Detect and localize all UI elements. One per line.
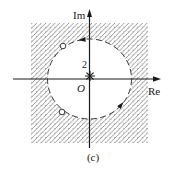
circle-point-marker-lower-icon <box>59 109 65 115</box>
asterisk-pole-marker-icon <box>86 72 95 81</box>
origin-label: O <box>77 82 85 94</box>
complex-plane-figure: Im Re O 2 (c) <box>0 0 173 171</box>
im-axis-label: Im <box>73 9 86 21</box>
pole-multiplicity-label: 2 <box>82 59 87 70</box>
imaginary-axis-arrow-icon <box>87 9 92 17</box>
complex-plane-diagram: Im Re O 2 (c) <box>0 0 173 171</box>
circle-point-marker-upper-icon <box>60 43 66 49</box>
real-axis-arrow-icon <box>153 76 161 81</box>
figure-caption: (c) <box>87 151 100 164</box>
re-axis-label: Re <box>148 85 160 97</box>
